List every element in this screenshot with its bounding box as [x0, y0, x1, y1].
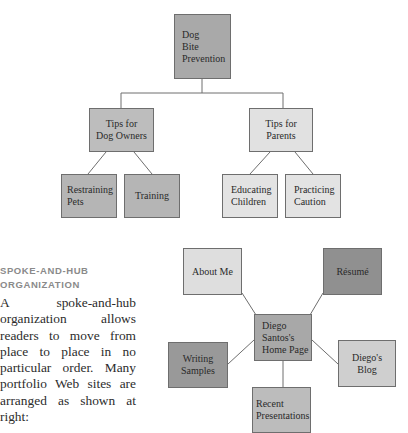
- node-dog-bite-prevention: Dog Bite Prevention: [174, 14, 231, 79]
- node-label: Résumé: [336, 266, 368, 278]
- node-label: Diego Santos's Home Page: [262, 320, 308, 356]
- node-hub-home-page: Diego Santos's Home Page: [254, 314, 312, 361]
- node-restraining-pets: Restraining Pets: [61, 174, 117, 218]
- node-about-me: About Me: [183, 248, 242, 295]
- node-diegos-blog: Diego's Blog: [338, 340, 396, 387]
- node-label: Educating Children: [231, 184, 272, 208]
- node-label: Recent Presentations: [256, 398, 309, 422]
- node-label: Tips for Parents: [265, 118, 297, 142]
- node-practicing-caution: Practicing Caution: [285, 174, 341, 218]
- node-educating-children: Educating Children: [222, 174, 278, 218]
- node-label: Tips for Dog Owners: [96, 118, 147, 142]
- node-tips-for-dog-owners: Tips for Dog Owners: [89, 108, 154, 152]
- section-body: A spoke-and-hub organization allows read…: [0, 295, 136, 425]
- node-label: Diego's Blog: [352, 352, 382, 376]
- node-label: About Me: [192, 266, 233, 278]
- node-resume: Résumé: [323, 248, 382, 295]
- node-writing-samples: Writing Samples: [168, 342, 228, 388]
- node-tips-for-parents: Tips for Parents: [249, 108, 313, 152]
- section-heading: SPOKE-AND-HUB ORGANIZATION: [0, 264, 89, 292]
- node-training: Training: [124, 174, 180, 218]
- node-label: Writing Samples: [181, 353, 215, 377]
- node-label: Dog Bite Prevention: [182, 29, 225, 65]
- node-label: Practicing Caution: [294, 184, 335, 208]
- node-label: Training: [135, 190, 169, 202]
- node-recent-presentations: Recent Presentations: [252, 387, 311, 433]
- node-label: Restraining Pets: [67, 184, 113, 208]
